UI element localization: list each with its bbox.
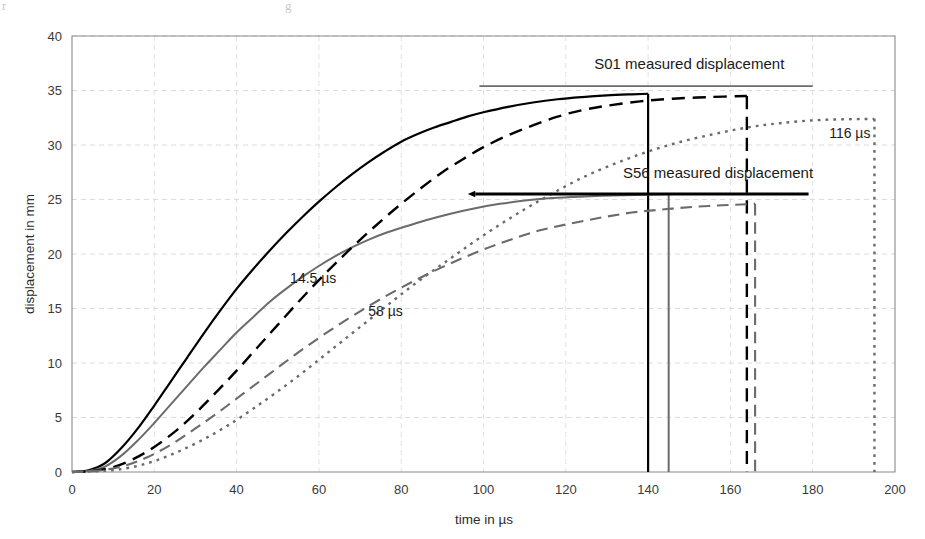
svg-text:r: r [2, 0, 7, 13]
x-tick-label: 0 [68, 482, 75, 497]
axis-ticks-layer: 0510152025303540020406080100120140160180… [48, 29, 906, 498]
data-series-layer [72, 94, 874, 472]
series-line-1 [72, 194, 669, 472]
annotations-layer: S01 measured displacementS56 measured di… [290, 55, 870, 319]
grid-lines [72, 36, 895, 472]
x-tick-label: 80 [394, 482, 408, 497]
series-line-0 [72, 94, 648, 472]
annotation-label-116: 116 µs [829, 125, 870, 141]
y-tick-label: 20 [48, 247, 62, 262]
y-tick-label: 40 [48, 29, 62, 44]
svg-text:g: g [285, 0, 292, 13]
annotation-label-58: 58 µs [368, 303, 403, 319]
x-tick-label: 160 [720, 482, 742, 497]
x-tick-label: 100 [473, 482, 495, 497]
y-tick-label: 5 [55, 410, 62, 425]
y-tick-label: 10 [48, 356, 62, 371]
x-tick-label: 20 [147, 482, 161, 497]
y-tick-label: 25 [48, 192, 62, 207]
y-axis-title: displacement in mm [22, 194, 37, 314]
x-tick-label: 180 [802, 482, 824, 497]
x-axis-title: time in µs [455, 512, 513, 527]
y-tick-label: 30 [48, 138, 62, 153]
x-tick-label: 40 [229, 482, 243, 497]
x-tick-label: 200 [884, 482, 906, 497]
page-bleed-artifacts: r g [2, 0, 292, 13]
x-tick-label: 140 [637, 482, 659, 497]
x-tick-label: 120 [555, 482, 577, 497]
annotation-s56-label: S56 measured displacement [623, 164, 814, 181]
x-tick-label: 60 [312, 482, 326, 497]
annotation-label-14-5: 14.5 µs [290, 270, 336, 286]
y-tick-label: 15 [48, 301, 62, 316]
annotation-s01-label: S01 measured displacement [594, 55, 785, 72]
y-tick-label: 35 [48, 83, 62, 98]
y-tick-label: 0 [55, 465, 62, 480]
line-chart: r g 051015202530354002040608010012014016… [0, 0, 925, 539]
chart-figure: r g 051015202530354002040608010012014016… [0, 0, 925, 539]
